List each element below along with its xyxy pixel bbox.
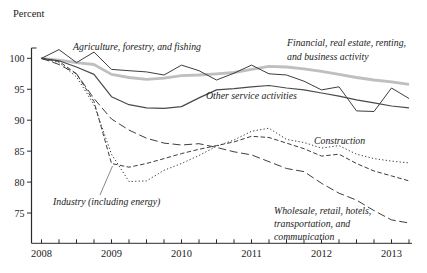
chart-figure: Percent 10095908580752008200920102011201… <box>0 0 427 273</box>
x-year-label: 2008 <box>31 248 52 259</box>
y-tick-label: 80 <box>15 177 25 188</box>
series-label-construction: Construction <box>314 135 365 146</box>
y-tick-label: 100 <box>10 53 25 64</box>
y-tick-label: 75 <box>15 208 25 219</box>
x-year-label: 2009 <box>101 248 122 259</box>
axis-unit-label: Percent <box>13 8 45 19</box>
x-year-label: 2013 <box>381 248 402 259</box>
x-year-label: 2010 <box>171 248 192 259</box>
series-label-financial-line1: Financial, real estate, renting, <box>286 37 406 48</box>
y-tick-label: 85 <box>15 146 25 157</box>
y-tick-label: 90 <box>15 115 25 126</box>
series-label-other-services: Other service activities <box>206 90 297 101</box>
chart-canvas: Percent 10095908580752008200920102011201… <box>0 0 427 273</box>
series-label-wholesale-line1: Wholesale, retail, hotels, <box>274 205 371 216</box>
series-label-financial-line2: and business activity <box>287 51 369 62</box>
series-label-industry: Industry (including energy) <box>52 196 160 208</box>
axes-layer: 1009590858075200820092010201120122013 <box>10 48 413 259</box>
x-year-label: 2012 <box>311 248 332 259</box>
industry-label-leader-line <box>100 166 113 195</box>
series-line-financial <box>42 58 410 84</box>
series-label-wholesale-line2: transportation, and <box>274 218 350 229</box>
series-label-agriculture: Agriculture, forestry, and fishing <box>72 41 201 52</box>
series-label-wholesale-line3: communication <box>274 231 335 242</box>
y-tick-label: 95 <box>15 84 25 95</box>
x-year-label: 2011 <box>241 248 262 259</box>
